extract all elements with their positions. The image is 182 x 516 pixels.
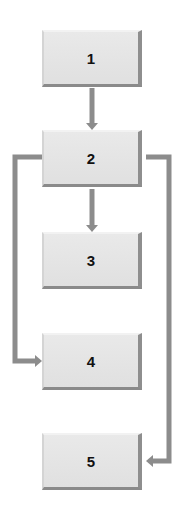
node-1: 1: [42, 30, 142, 87]
flowchart-diagram: 1 2 3 4 5: [0, 0, 182, 516]
node-label: 2: [87, 150, 95, 167]
node-label: 3: [87, 252, 95, 269]
arrowhead-2-to-3: [86, 225, 98, 232]
node-2: 2: [42, 130, 142, 187]
node-label: 5: [87, 453, 95, 470]
node-3: 3: [42, 232, 142, 289]
edge-2-to-4: [15, 157, 42, 361]
node-5: 5: [42, 433, 142, 490]
arrowhead-1-to-2: [86, 123, 98, 130]
node-label: 4: [87, 353, 95, 370]
node-label: 1: [87, 50, 95, 67]
arrowhead-2-to-5: [146, 455, 153, 467]
arrowhead-2-to-4: [35, 355, 42, 367]
node-4: 4: [42, 333, 142, 390]
edge-2-to-5: [146, 157, 169, 461]
